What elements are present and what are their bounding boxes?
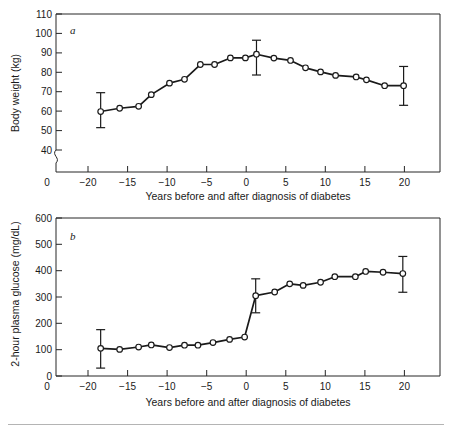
data-point [364, 77, 370, 83]
data-point [98, 109, 104, 115]
panel-b-x-axis-label: Years before and after diagnosis of diab… [145, 396, 350, 408]
panel-a-xtick-m20: −20 [80, 177, 97, 188]
panel-a-y-ticks [56, 14, 62, 150]
panel-b-xtick-origin: 0 [44, 381, 50, 392]
data-point [400, 271, 406, 277]
panel-a-series [96, 40, 408, 127]
data-line [101, 54, 404, 111]
data-point [253, 293, 259, 299]
panel-a-xtick-m10: −10 [159, 177, 176, 188]
data-point [318, 279, 324, 285]
panel-b-ytick-400: 400 [35, 265, 52, 276]
data-point [300, 283, 306, 289]
data-point [148, 92, 154, 98]
panel-b-xtick-20: 20 [399, 381, 411, 392]
panel-b-ytick-200: 200 [35, 318, 52, 329]
panel-b-letter: b [70, 230, 76, 242]
panel-a-ytick-40: 40 [41, 145, 53, 156]
data-point [98, 346, 104, 352]
data-point [227, 337, 233, 343]
data-point [148, 342, 154, 348]
panel-b-y-ticklabels: 600 500 400 300 200 100 0 [35, 213, 52, 382]
data-point [333, 73, 339, 79]
data-point [228, 55, 234, 61]
panel-a-xtick-origin: 0 [44, 177, 50, 188]
data-point [243, 55, 249, 61]
data-point [271, 55, 277, 61]
panel-b-y-axis-label: 2-hour plasma glucose (mg/dL) [9, 221, 21, 366]
data-point [242, 334, 248, 340]
panel-a-xtick-20: 20 [399, 177, 411, 188]
panel-a-ytick-100: 100 [35, 28, 52, 39]
panel-a-xtick-10: 10 [320, 177, 332, 188]
data-point [287, 281, 293, 287]
panel-b-xtick-m20: −20 [80, 381, 97, 392]
panel-a-axes [55, 14, 440, 172]
data-line [101, 271, 403, 349]
panel-a-xtick-15: 15 [359, 177, 371, 188]
data-point [167, 80, 173, 86]
data-point [195, 342, 201, 348]
data-point [212, 62, 218, 68]
data-point [363, 269, 369, 275]
panel-b-xtick-15: 15 [359, 381, 371, 392]
panel-b-xtick-m10: −10 [159, 381, 176, 392]
panel-b-ytick-100: 100 [35, 344, 52, 355]
data-point [136, 344, 142, 350]
panel-a-axis-break [55, 150, 58, 172]
panel-a-letter: a [70, 24, 76, 36]
panel-a-x-ticks [88, 166, 404, 172]
panel-b-x-ticklabels: 0 −20 −15 −10 −5 0 5 10 15 20 [44, 381, 410, 392]
panel-a-ytick-70: 70 [41, 86, 53, 97]
data-point [401, 83, 407, 89]
panel-b-y-ticks [56, 218, 62, 376]
panel-b-chart: 2-hour plasma glucose (mg/dL) 600 500 40… [0, 204, 452, 431]
panel-a-chart: Body weight (kg) 110 100 [0, 0, 452, 204]
data-point [382, 83, 388, 89]
panel-b-xtick-m5: −5 [201, 381, 213, 392]
data-point [353, 274, 359, 280]
panel-b-ytick-300: 300 [35, 292, 52, 303]
panel-a-ytick-80: 80 [41, 67, 53, 78]
data-point [167, 345, 173, 351]
data-point [198, 62, 204, 68]
panel-a-x-ticklabels: 0 −20 −15 −10 −5 0 5 10 15 20 [44, 177, 410, 188]
panel-b-xtick-m15: −15 [119, 381, 136, 392]
panel-a-xtick-m5: −5 [201, 177, 213, 188]
figure-container: Body weight (kg) 110 100 [0, 0, 452, 431]
data-point [182, 342, 188, 348]
panel-b-xtick-10: 10 [320, 381, 332, 392]
panel-a-ytick-90: 90 [41, 47, 53, 58]
panel-a-ytick-60: 60 [41, 106, 53, 117]
data-point [318, 69, 324, 75]
panel-b-axes [56, 218, 440, 376]
data-point [117, 347, 123, 353]
footer-divider [8, 424, 444, 425]
data-point [136, 103, 142, 109]
data-point [272, 289, 278, 295]
panel-b-ytick-0: 0 [46, 371, 52, 382]
data-point [380, 269, 386, 275]
panel-b-xtick-5: 5 [283, 381, 289, 392]
panel-a-x-axis-label: Years before and after diagnosis of diab… [145, 190, 350, 202]
panel-a-xtick-0: 0 [243, 177, 249, 188]
data-point [303, 65, 309, 71]
data-point [182, 76, 188, 82]
panel-b-ytick-500: 500 [35, 239, 52, 250]
panel-a-ytick-110: 110 [36, 9, 52, 20]
panel-b-x-ticks [88, 370, 404, 376]
data-point [210, 340, 216, 346]
data-point [288, 58, 294, 64]
panel-b-xtick-0: 0 [243, 381, 249, 392]
data-point [353, 74, 359, 80]
panel-a-y-ticklabels: 110 100 90 80 70 60 50 40 [35, 9, 52, 156]
panel-a-y-axis-label: Body weight (kg) [9, 54, 21, 132]
data-point [254, 51, 260, 57]
panel-b-ytick-600: 600 [35, 213, 52, 224]
panel-b-series [96, 256, 407, 368]
panel-a-xtick-5: 5 [283, 177, 289, 188]
panel-a-xtick-m15: −15 [119, 177, 136, 188]
data-point [117, 105, 123, 111]
data-point [332, 274, 338, 280]
panel-a-ytick-50: 50 [41, 125, 53, 136]
